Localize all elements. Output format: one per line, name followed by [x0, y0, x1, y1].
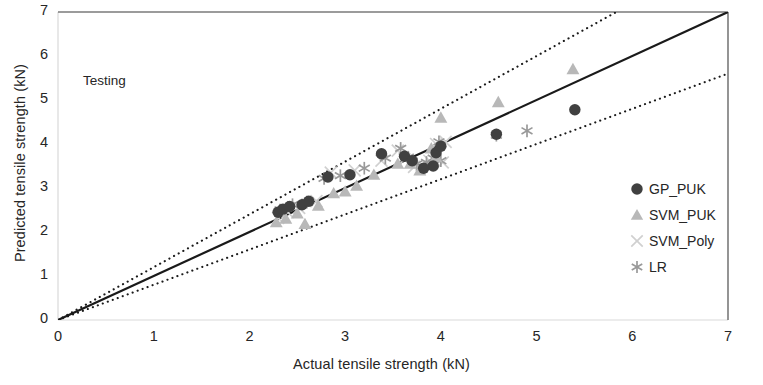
legend-marker-triangle-icon	[628, 206, 646, 224]
legend-label-3: LR	[649, 259, 667, 275]
legend-marker-asterisk-icon	[628, 258, 646, 276]
x-tick-label-5: 5	[524, 328, 550, 344]
y-tick-label-7: 7	[22, 2, 48, 18]
y-tick-label-3: 3	[22, 178, 48, 194]
data-point	[327, 187, 340, 198]
y-tick-label-6: 6	[22, 46, 48, 62]
legend-marker-cross-icon	[628, 232, 646, 250]
x-tick-label-4: 4	[428, 328, 454, 344]
y-tick-label-4: 4	[22, 134, 48, 150]
data-point	[406, 155, 417, 166]
data-point	[566, 63, 579, 74]
plot-annotation-testing: Testing	[83, 73, 126, 88]
data-point	[376, 148, 387, 159]
legend-item-0[interactable]: GP_PUK	[628, 176, 758, 202]
x-tick-label-0: 0	[45, 328, 71, 344]
data-point	[492, 96, 505, 107]
legend-item-3[interactable]: LR	[628, 254, 758, 280]
data-point	[284, 201, 295, 212]
legend-item-2[interactable]: SVM_Poly	[628, 228, 758, 254]
data-point	[491, 129, 502, 140]
data-point	[359, 162, 370, 175]
data-point	[569, 104, 580, 115]
data-point	[418, 162, 429, 173]
y-tick-label-2: 2	[22, 222, 48, 238]
y-axis-title: Predicted tensile strength (kN)	[12, 43, 28, 283]
y-tick-label-0: 0	[22, 310, 48, 326]
series-SVM_PUK	[270, 63, 580, 229]
x-tick-label-2: 2	[236, 328, 262, 344]
x-tick-label-1: 1	[141, 328, 167, 344]
data-points-layer	[270, 63, 581, 229]
y-tick-label-1: 1	[22, 266, 48, 282]
data-point	[335, 169, 346, 182]
data-point	[434, 111, 447, 122]
legend-label-0: GP_PUK	[649, 181, 706, 197]
data-point	[344, 169, 355, 180]
data-point	[522, 124, 533, 137]
x-tick-label-3: 3	[332, 328, 358, 344]
data-point	[298, 218, 311, 229]
data-point	[303, 195, 314, 206]
scatter-chart-figure: Predicted tensile strength (kN) Actual t…	[0, 0, 763, 385]
legend-label-2: SVM_Poly	[649, 233, 714, 249]
legend-marker-circle-icon	[628, 180, 646, 198]
data-point	[435, 140, 446, 151]
x-tick-label-7: 7	[715, 328, 741, 344]
data-point	[322, 171, 333, 182]
legend-item-1[interactable]: SVM_PUK	[628, 202, 758, 228]
x-tick-label-6: 6	[619, 328, 645, 344]
x-axis-title: Actual tensile strength (kN)	[0, 356, 763, 372]
legend-label-1: SVM_PUK	[649, 207, 716, 223]
chart-legend: GP_PUK SVM_PUK SVM_Poly LR	[628, 176, 758, 280]
data-point	[427, 160, 438, 171]
y-tick-label-5: 5	[22, 90, 48, 106]
